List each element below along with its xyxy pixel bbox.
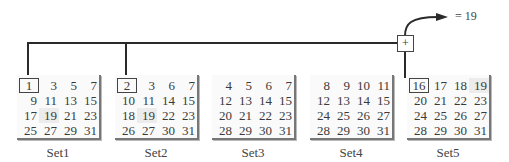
number-cell: 21 — [429, 93, 449, 108]
number-cell: 26 — [352, 108, 372, 123]
number-cell: 23 — [469, 93, 489, 108]
set-card-2: 2367101114151819222326273031 — [115, 75, 199, 140]
number-cell: 27 — [39, 123, 59, 138]
number-cell: 15 — [79, 93, 99, 108]
number-cell: 19 — [39, 108, 59, 123]
number-cell: 17 — [19, 108, 39, 123]
number-cell: 10 — [117, 93, 137, 108]
set-card-5: 16171819202122232425262728293031 — [407, 75, 491, 140]
number-cell: 3 — [39, 78, 59, 93]
number-cell: 22 — [254, 108, 274, 123]
number-cell: 22 — [449, 93, 469, 108]
number-cell: 6 — [254, 78, 274, 93]
connector-horizontal — [27, 42, 398, 44]
number-grid: 2367101114151819222326273031 — [117, 78, 197, 138]
number-cell: 20 — [214, 108, 234, 123]
number-cell: 23 — [79, 108, 99, 123]
number-cell: 14 — [157, 93, 177, 108]
number-grid: 4567121314152021222328293031 — [214, 78, 294, 138]
number-cell: 30 — [157, 123, 177, 138]
number-cell: 21 — [59, 108, 79, 123]
number-cell: 18 — [117, 108, 137, 123]
number-cell: 29 — [234, 123, 254, 138]
number-cell: 31 — [372, 123, 392, 138]
number-cell: 17 — [429, 78, 449, 93]
number-cell: 19 — [469, 78, 489, 93]
number-cell: 26 — [449, 108, 469, 123]
number-cell: 21 — [234, 108, 254, 123]
number-cell: 25 — [332, 108, 352, 123]
number-cell: 31 — [177, 123, 197, 138]
number-cell: 9 — [332, 78, 352, 93]
number-cell: 11 — [372, 78, 392, 93]
set-label: Set2 — [115, 145, 197, 161]
number-cell: 28 — [409, 123, 429, 138]
number-cell: 25 — [429, 108, 449, 123]
number-cell: 30 — [449, 123, 469, 138]
set-label: Set3 — [212, 145, 294, 161]
number-cell: 15 — [372, 93, 392, 108]
number-cell: 11 — [137, 93, 157, 108]
number-cell: 27 — [372, 108, 392, 123]
number-cell: 4 — [214, 78, 234, 93]
number-cell: 13 — [332, 93, 352, 108]
number-cell: 15 — [274, 93, 294, 108]
number-cell: 18 — [449, 78, 469, 93]
number-cell: 30 — [254, 123, 274, 138]
number-cell: 7 — [177, 78, 197, 93]
connector-set5 — [404, 51, 406, 78]
number-cell: 13 — [234, 93, 254, 108]
number-cell: 20 — [409, 93, 429, 108]
number-cell: 10 — [352, 78, 372, 93]
set-card-3: 4567121314152021222328293031 — [212, 75, 296, 140]
number-cell: 5 — [234, 78, 254, 93]
number-cell: 15 — [177, 93, 197, 108]
set-label: Set1 — [17, 145, 99, 161]
number-grid: 16171819202122232425262728293031 — [409, 78, 489, 138]
output-arrow-icon — [398, 6, 458, 38]
number-cell: 27 — [137, 123, 157, 138]
number-cell: 24 — [312, 108, 332, 123]
number-cell: 30 — [352, 123, 372, 138]
number-cell: 1 — [19, 78, 39, 93]
set-card-4: 891011121314152425262728293031 — [310, 75, 394, 140]
number-cell: 5 — [59, 78, 79, 93]
number-cell: 14 — [254, 93, 274, 108]
number-cell: 6 — [157, 78, 177, 93]
number-cell: 19 — [137, 108, 157, 123]
number-cell: 16 — [409, 78, 429, 93]
number-cell: 31 — [79, 123, 99, 138]
number-cell: 24 — [409, 108, 429, 123]
number-cell: 25 — [19, 123, 39, 138]
number-cell: 31 — [469, 123, 489, 138]
sum-operator: + — [397, 35, 414, 52]
number-cell: 12 — [214, 93, 234, 108]
number-cell: 9 — [19, 93, 39, 108]
number-cell: 22 — [157, 108, 177, 123]
number-cell: 14 — [352, 93, 372, 108]
number-cell: 2 — [117, 78, 137, 93]
sum-result: = 19 — [455, 9, 477, 24]
number-cell: 26 — [117, 123, 137, 138]
number-cell: 7 — [274, 78, 294, 93]
number-cell: 23 — [274, 108, 294, 123]
number-grid: 891011121314152425262728293031 — [312, 78, 392, 138]
number-cell: 29 — [332, 123, 352, 138]
number-cell: 31 — [274, 123, 294, 138]
number-grid: 135791113151719212325272931 — [19, 78, 99, 138]
number-cell: 29 — [59, 123, 79, 138]
number-cell: 28 — [312, 123, 332, 138]
number-cell: 7 — [79, 78, 99, 93]
number-cell: 11 — [39, 93, 59, 108]
number-cell: 8 — [312, 78, 332, 93]
connector-set2 — [125, 42, 127, 78]
connector-set1 — [27, 42, 29, 78]
number-cell: 29 — [429, 123, 449, 138]
number-cell: 12 — [312, 93, 332, 108]
number-cell: 27 — [469, 108, 489, 123]
number-cell: 23 — [177, 108, 197, 123]
number-cell: 3 — [137, 78, 157, 93]
set-label: Set5 — [407, 145, 489, 161]
number-cell: 13 — [59, 93, 79, 108]
set-card-1: 135791113151719212325272931 — [17, 75, 101, 140]
